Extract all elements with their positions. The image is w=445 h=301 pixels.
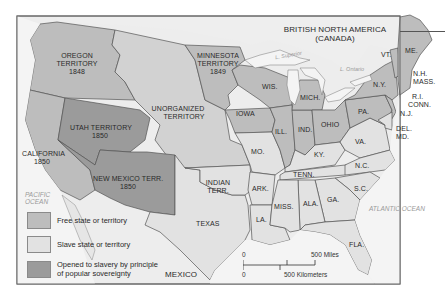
label-unorganized-line2: TERRITORY xyxy=(148,113,208,121)
label-nj: N.J. xyxy=(400,110,413,118)
label-pacific-line1: PACIFIC xyxy=(25,191,50,198)
label-canada-line1: BRITISH NORTH AMERICA xyxy=(275,25,395,34)
label-ky: KY. xyxy=(314,151,325,159)
label-minnesota-line2: TERRITORY xyxy=(193,60,243,68)
label-indian-line2: TERR. xyxy=(203,187,233,195)
label-minnesota-territory: MINNESOTA TERRITORY 1849 xyxy=(193,52,243,76)
legend-swatch-slave xyxy=(27,236,51,253)
label-lake-ontario: L. Ontario xyxy=(340,66,364,72)
top-right-rule xyxy=(400,31,445,32)
label-texas: TEXAS xyxy=(196,220,219,228)
legend-swatch-popular-sovereignty xyxy=(27,261,51,278)
label-minnesota-year: 1849 xyxy=(193,68,243,76)
label-oregon-year: 1848 xyxy=(52,68,102,76)
label-ark: ARK. xyxy=(252,185,269,193)
legend-label-popular-sovereignty: Opened to slavery by principle of popula… xyxy=(57,260,158,278)
label-ny: N.Y. xyxy=(373,81,386,89)
scale-ruler xyxy=(243,260,323,270)
label-va: VA. xyxy=(355,138,366,146)
label-miss: MISS. xyxy=(274,203,294,211)
legend-item-free: Free state or territory xyxy=(27,212,158,229)
scale-km-label: 500 Kilometers xyxy=(284,271,327,278)
map-legend: Free state or territory Slave state or t… xyxy=(27,212,158,285)
label-nc: N.C. xyxy=(355,162,369,170)
label-utah-territory: UTAH TERRITORY 1850 xyxy=(70,124,130,140)
label-iowa: IOWA xyxy=(236,110,255,118)
label-indian-territory: INDIAN TERR. xyxy=(203,179,233,195)
label-la: LA. xyxy=(256,216,267,224)
label-mich: MICH. xyxy=(300,94,320,102)
label-indian-name: INDIAN xyxy=(203,179,233,187)
label-ohio: OHIO xyxy=(321,121,339,129)
label-canada-line2: (CANADA) xyxy=(275,34,395,43)
legend-item-slave: Slave state or territory xyxy=(27,236,158,253)
label-mexico: MEXICO xyxy=(165,271,197,279)
scale-miles-zero: 0 xyxy=(242,251,246,258)
label-unorganized-name: UNORGANIZED xyxy=(148,105,208,113)
label-california-name: CALIFORNIA xyxy=(22,150,62,158)
label-sc: S.C. xyxy=(354,185,368,193)
label-california: CALIFORNIA 1850 xyxy=(22,150,62,166)
label-oregon-territory: OREGON TERRITORY 1848 xyxy=(52,52,102,76)
label-canada: BRITISH NORTH AMERICA (CANADA) xyxy=(275,25,395,43)
label-new-mexico-territory: NEW MEXICO TERR. 1850 xyxy=(93,175,163,191)
label-fla: FLA. xyxy=(349,241,364,249)
legend-label-free: Free state or territory xyxy=(57,216,127,225)
label-minnesota-name: MINNESOTA xyxy=(193,52,243,60)
legend-label-ps-line2: of popular sovereignty xyxy=(57,269,158,278)
scale-km-zero: 0 xyxy=(242,271,246,278)
label-ind: IND. xyxy=(298,126,312,134)
label-md: MD. xyxy=(396,133,409,141)
label-utah-name: UTAH TERRITORY xyxy=(70,124,130,132)
label-wis: WIS. xyxy=(262,83,278,91)
label-mass: MASS. xyxy=(413,78,435,86)
scale-miles-label: 500 Miles xyxy=(311,251,339,258)
label-oregon-name: OREGON xyxy=(52,52,102,60)
label-california-year: 1850 xyxy=(22,158,62,166)
label-mo: MO. xyxy=(251,148,265,156)
scale-bar: 0 500 Miles 0 500 Kilometers xyxy=(242,251,352,281)
label-utah-year: 1850 xyxy=(70,132,130,140)
label-del: DEL. xyxy=(396,125,412,133)
label-pacific-line2: OCEAN xyxy=(25,198,50,205)
label-ga: GA. xyxy=(327,196,339,204)
label-pacific-ocean: PACIFIC OCEAN xyxy=(25,191,50,205)
label-oregon-line2: TERRITORY xyxy=(52,60,102,68)
label-ala: ALA. xyxy=(303,200,319,208)
label-me: ME. xyxy=(405,47,418,55)
label-new-mexico-name: NEW MEXICO TERR. xyxy=(93,175,163,183)
label-vt: VT. xyxy=(381,51,391,59)
label-conn: CONN. xyxy=(408,101,431,109)
label-nh: N.H. xyxy=(413,70,427,78)
legend-label-slave: Slave state or territory xyxy=(57,240,130,249)
label-atlantic-ocean: ATLANTIC OCEAN xyxy=(369,205,425,212)
label-tenn: TENN. xyxy=(293,171,315,179)
legend-label-ps-line1: Opened to slavery by principle xyxy=(57,260,158,269)
label-pa: PA. xyxy=(358,108,369,116)
label-new-mexico-year: 1850 xyxy=(93,183,163,191)
legend-swatch-free xyxy=(27,212,51,229)
label-ri: R.I. xyxy=(412,93,423,101)
legend-item-popular-sovereignty: Opened to slavery by principle of popula… xyxy=(27,260,158,278)
label-unorganized-territory: UNORGANIZED TERRITORY xyxy=(148,105,208,121)
label-ill: ILL. xyxy=(275,128,287,136)
